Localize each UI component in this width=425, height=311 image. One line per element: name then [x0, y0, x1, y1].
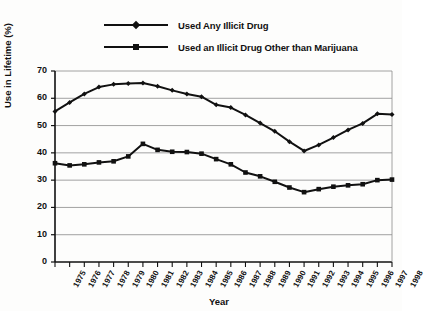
data-point — [53, 161, 58, 166]
data-point — [170, 149, 175, 154]
data-point — [375, 178, 380, 183]
data-point — [185, 150, 190, 155]
y-tick-label: 50 — [21, 120, 47, 130]
y-tick-label: 20 — [21, 201, 47, 211]
data-point — [199, 151, 204, 156]
data-point — [111, 159, 116, 164]
data-point — [272, 179, 277, 184]
x-tick-label: 1998 — [408, 269, 424, 289]
data-point — [360, 182, 365, 187]
data-point — [111, 82, 116, 87]
y-tick-label: 0 — [21, 256, 47, 266]
data-point — [302, 190, 307, 195]
data-point — [170, 88, 175, 93]
data-point — [155, 84, 160, 89]
data-point — [331, 184, 336, 189]
data-point — [214, 157, 219, 162]
y-tick-label: 30 — [21, 174, 47, 184]
series-line-1 — [55, 144, 392, 192]
data-point — [126, 81, 131, 86]
y-tick-label: 70 — [21, 65, 47, 75]
series-line-0 — [55, 83, 392, 151]
data-point — [140, 81, 145, 86]
data-point — [184, 91, 189, 96]
data-point — [258, 174, 263, 179]
y-tick-label: 10 — [21, 229, 47, 239]
data-point — [390, 177, 395, 182]
data-point — [229, 162, 234, 167]
data-point — [390, 112, 395, 117]
data-point — [287, 185, 292, 190]
y-tick-label: 40 — [21, 147, 47, 157]
data-point — [346, 183, 351, 188]
data-point — [67, 163, 72, 168]
data-point — [316, 187, 321, 192]
data-point — [141, 142, 146, 147]
data-point — [82, 162, 87, 167]
data-point — [126, 154, 131, 159]
data-point — [243, 170, 248, 175]
data-point — [155, 148, 160, 153]
y-tick-label: 60 — [21, 92, 47, 102]
data-point — [97, 160, 102, 165]
